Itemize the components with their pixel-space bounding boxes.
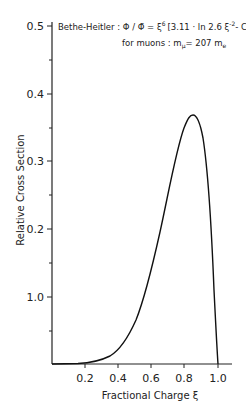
x-tick-label: 0.4 xyxy=(109,372,127,385)
muon-mass-annotation: for muons : mμ= 207 me xyxy=(122,38,226,50)
formula-annotation: Bethe-Heitler : Φ / Φ̄ = ξ6[3.11 · ln 2.… xyxy=(58,20,246,32)
y-tick-label: 0.3 xyxy=(27,155,45,168)
chart: 0.5 0.4 0.3 0.2 1.0 0.2 0.4 0.6 0.8 1.0 … xyxy=(0,0,246,409)
x-tick-label: 0.2 xyxy=(76,372,94,385)
y-tick-label: 0.5 xyxy=(27,20,45,33)
cross-section-curve xyxy=(52,115,218,364)
x-tick-label: 0.8 xyxy=(175,372,193,385)
y-tick-label: 0.4 xyxy=(27,88,45,101)
x-axis-title: Fractional Charge ξ xyxy=(102,390,199,401)
x-tick-label: 0.6 xyxy=(142,372,160,385)
y-tick-label: 0.2 xyxy=(27,223,45,236)
x-tick-label: 1.0 xyxy=(209,372,227,385)
y-tick-label: 1.0 xyxy=(27,291,45,304)
y-axis-title: Relative Cross Section xyxy=(15,134,26,245)
y-ticks xyxy=(47,26,52,331)
